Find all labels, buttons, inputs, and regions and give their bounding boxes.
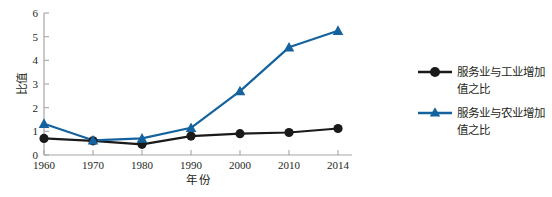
data-point-marker [186,131,195,140]
x-axis-tick-labels: 1960197019801990200020102014 [33,159,350,171]
legend-label-industry-line1: 服务业与工业增加 [457,65,545,78]
legend-label-industry-line2: 值之比 [457,82,490,95]
y-tick-label-2: 2 [33,102,39,114]
x-tick-label-2014: 2014 [327,159,350,171]
y-axis-title: 比值 [16,72,28,95]
data-point-marker [39,118,50,128]
chart-figure: 0123456 1960197019801990200020102014 比值 … [0,0,552,197]
legend-marker-circle-icon [430,67,440,77]
y-tick-label-4: 4 [33,54,39,66]
data-point-marker [333,124,342,133]
data-point-marker [333,25,344,35]
x-tick-label-1980: 1980 [131,159,154,171]
legend-label-agriculture-line2: 值之比 [457,123,490,136]
data-point-marker [39,134,48,143]
x-tick-label-2010: 2010 [278,159,301,171]
legend-label-agriculture-line1: 服务业与农业增加 [457,106,545,119]
x-tick-label-2000: 2000 [229,159,252,171]
y-tick-label-1: 1 [33,125,39,137]
x-tick-label-1990: 1990 [180,159,203,171]
y-axis-tick-labels: 0123456 [33,7,39,161]
y-tick-label-5: 5 [33,31,39,43]
legend-entry-agriculture[interactable]: 服务业与农业增加 值之比 [418,106,545,136]
line-chart: 0123456 1960197019801990200020102014 比值 … [0,0,552,197]
x-tick-label-1970: 1970 [82,159,105,171]
data-point-marker [284,128,293,137]
y-tick-label-3: 3 [33,78,39,90]
y-tick-label-6: 6 [33,7,39,19]
legend-entry-industry[interactable]: 服务业与工业增加 值之比 [418,65,545,95]
x-axis-title: 年 份 [186,173,212,186]
x-tick-label-1960: 1960 [33,159,56,171]
x-axis-ticks [44,150,338,155]
y-axis-ticks [44,13,49,155]
data-point-marker [235,129,244,138]
chart-legend: 服务业与工业增加 值之比 服务业与农业增加 值之比 [418,65,545,136]
